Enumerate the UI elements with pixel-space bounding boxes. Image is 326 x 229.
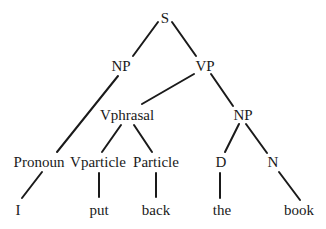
node-np-subject: NP bbox=[111, 59, 130, 74]
node-vparticle: Vparticle bbox=[70, 155, 126, 170]
edge-pronoun-i bbox=[22, 172, 42, 198]
edge-vp-vphrasal bbox=[142, 74, 194, 104]
edge-vphrasal-vparticle bbox=[102, 125, 121, 152]
leaf-i: I bbox=[16, 203, 21, 218]
leaf-put: put bbox=[89, 203, 108, 218]
node-vp: VP bbox=[195, 59, 214, 74]
node-vphrasal: Vphrasal bbox=[100, 108, 154, 123]
node-np-object: NP bbox=[233, 108, 252, 123]
edges-group bbox=[22, 22, 300, 200]
node-n: N bbox=[268, 155, 279, 170]
tree-edges bbox=[0, 0, 326, 229]
node-particle: Particle bbox=[133, 155, 179, 170]
node-d: D bbox=[216, 155, 227, 170]
node-pronoun: Pronoun bbox=[14, 155, 65, 170]
edge-np2-d bbox=[225, 124, 239, 152]
edge-vphrasal-particle bbox=[134, 125, 152, 152]
leaf-back: back bbox=[142, 203, 170, 218]
edge-s-vp bbox=[172, 22, 196, 56]
edge-vp-np2 bbox=[211, 74, 233, 106]
edge-s-np1 bbox=[133, 22, 158, 56]
node-s: S bbox=[161, 11, 169, 26]
edge-n-book bbox=[279, 172, 300, 200]
edge-np2-n bbox=[246, 124, 267, 153]
leaf-the: the bbox=[213, 203, 231, 218]
leaf-book: book bbox=[284, 203, 314, 218]
